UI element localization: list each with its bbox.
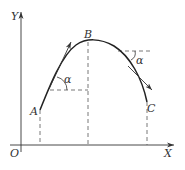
angle-arc-right [131, 51, 135, 60]
point-c-label: C [147, 102, 156, 115]
tangent-arrow-right [128, 66, 152, 90]
y-axis-label: Y [11, 10, 20, 23]
angle-alpha-right-label: α [136, 54, 144, 67]
origin-label: O [10, 147, 19, 160]
trajectory-diagram: Y X O A B C α α [0, 0, 185, 170]
angle-alpha-left-label: α [64, 73, 72, 86]
x-axis-label: X [163, 147, 173, 160]
point-a-label: A [29, 105, 38, 118]
point-b-label: B [83, 28, 92, 41]
